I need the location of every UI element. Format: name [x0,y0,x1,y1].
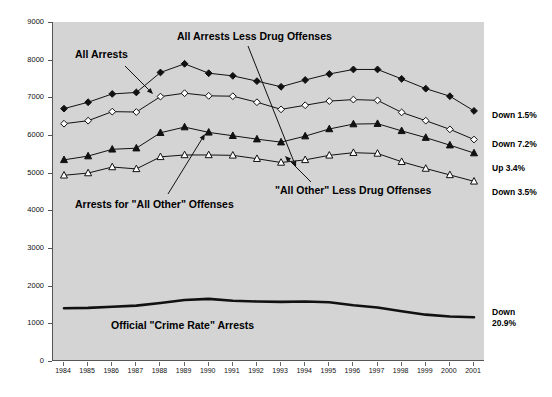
data-point [374,66,381,73]
series-4 [64,299,474,317]
x-tick-mark-1999 [425,362,426,366]
data-point [471,107,478,114]
data-point [181,123,188,130]
data-point [109,91,116,98]
x-tick-mark-1985 [87,362,88,366]
data-point [374,120,381,127]
annotation-all-other-offenses: Arrests for "All Other" Offenses [75,198,234,210]
data-point [422,117,429,124]
x-tick-mark-1986 [111,362,112,366]
data-point [422,85,429,92]
series-3 [61,149,478,184]
end-label-crime-rate-line1: Down [492,307,515,318]
data-point [85,99,92,106]
x-tick-mark-1998 [401,362,402,366]
end-label-all-other-less-drug: Down 3.5% [492,187,537,198]
data-point [446,126,453,133]
x-tick-mark-1996 [352,362,353,366]
chart-root: Per 100,000 Population 18 or Older 01000… [0,0,552,397]
y-tick-label-7000: 7000 [8,92,44,101]
x-tick-mark-1984 [63,362,64,366]
x-tick-mark-1992 [256,362,257,366]
data-point [398,109,405,116]
end-label-crime-rate-line2: 20.9% [492,318,516,329]
data-point [205,92,212,99]
data-point [61,105,68,112]
data-point [157,93,164,100]
y-tick-mark-0 [48,361,52,362]
data-point [302,77,309,84]
x-tick-mark-1993 [280,362,281,366]
data-point [350,96,357,103]
y-tick-label-1000: 1000 [8,318,44,327]
data-point [374,97,381,104]
x-tick-mark-2000 [449,362,450,366]
x-tick-mark-1997 [377,362,378,366]
y-tick-label-9000: 9000 [8,17,44,26]
data-point [446,93,453,100]
annotation-all-arrests: All Arrests [75,48,128,60]
data-point [326,71,333,78]
data-point [278,106,285,113]
data-point [254,78,261,85]
annotation-crime-rate: Official "Crime Rate" Arrests [111,319,254,331]
data-point [350,66,357,73]
data-point [229,93,236,100]
data-point [350,149,357,156]
series-2 [61,120,478,163]
data-point [109,163,116,170]
x-tick-mark-1995 [328,362,329,366]
data-point [61,120,68,127]
end-label-all-arrests-less-drug: Down 7.2% [492,139,537,150]
x-tick-mark-1988 [159,362,160,366]
data-point [229,72,236,79]
data-point [109,108,116,115]
data-point [181,90,188,97]
x-tick-label-2001: 2001 [458,367,488,374]
x-tick-mark-1994 [304,362,305,366]
plot-area: All Arrests All Arrests Less Drug Offens… [52,22,484,361]
end-label-all-other-offenses: Up 3.4% [492,163,525,174]
x-tick-mark-1990 [208,362,209,366]
y-tick-label-0: 0 [8,356,44,365]
end-label-all-arrests: Down 1.5% [492,110,537,121]
annotation-all-arrests-less-drug: All Arrests Less Drug Offenses [177,30,332,42]
y-tick-label-8000: 8000 [8,55,44,64]
data-point [398,75,405,82]
data-point [85,117,92,124]
data-point [133,109,140,116]
data-point [326,98,333,105]
leader-all-other-offenses [168,134,205,194]
y-tick-label-2000: 2000 [8,281,44,290]
y-tick-label-4000: 4000 [8,205,44,214]
data-point [471,136,478,143]
data-point [278,83,285,90]
y-tick-label-6000: 6000 [8,130,44,139]
x-tick-mark-2001 [473,362,474,366]
data-point [205,70,212,77]
y-tick-label-3000: 3000 [8,243,44,252]
data-point [133,144,140,151]
y-tick-label-5000: 5000 [8,168,44,177]
leader-all-arrests-less-drug [248,46,296,167]
data-point [302,102,309,109]
data-point [181,60,188,67]
annotation-all-other-less-drug: "All Other" Less Drug Offenses [275,184,431,196]
data-point [181,151,188,158]
x-tick-mark-1989 [184,362,185,366]
data-point [205,151,212,158]
x-tick-mark-1991 [232,362,233,366]
x-tick-mark-1987 [135,362,136,366]
data-point [254,99,261,106]
